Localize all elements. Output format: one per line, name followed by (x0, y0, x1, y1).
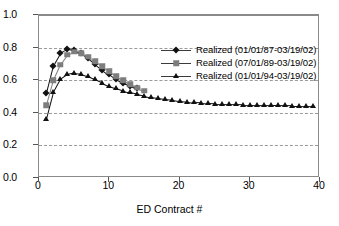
data-point-marker (303, 103, 309, 108)
y-axis-tick-label: 1.0 (0, 9, 17, 19)
data-point-marker (289, 103, 295, 108)
data-point-marker (113, 85, 119, 90)
y-axis-tick-label: 0.0 (0, 172, 17, 182)
data-point-marker (310, 103, 316, 108)
data-point-marker (261, 102, 267, 107)
data-point-marker (191, 99, 197, 104)
data-point-marker (50, 89, 56, 94)
data-point-marker (114, 73, 120, 79)
data-point-marker (92, 76, 98, 81)
data-point-marker (219, 101, 225, 106)
plot-area (38, 14, 319, 177)
data-point-marker (135, 85, 141, 91)
data-point-marker (169, 97, 175, 102)
data-point-marker (71, 49, 77, 55)
data-point-marker (78, 51, 84, 57)
y-axis-tick-label: 0.2 (0, 139, 17, 149)
x-axis-tick-mark (249, 177, 250, 182)
legend-label: Realized (01/01/87-03/19/02) (196, 44, 316, 56)
data-point-marker (148, 94, 154, 99)
y-axis-tick-label: 0.4 (0, 107, 17, 117)
data-point-marker (184, 99, 190, 104)
data-point-marker (99, 80, 105, 85)
data-point-marker (78, 71, 84, 76)
legend-marker-triangle (173, 73, 179, 78)
data-point-marker (240, 102, 246, 107)
data-point-marker (57, 76, 63, 81)
x-axis-tick-mark (108, 177, 109, 182)
data-point-marker (162, 96, 168, 101)
data-point-marker (85, 73, 91, 78)
data-point-marker (155, 95, 161, 100)
data-point-marker (212, 101, 218, 106)
data-point-marker (120, 88, 126, 93)
data-point-marker (128, 82, 134, 88)
y-axis-tick-label: 0.8 (0, 42, 17, 52)
data-point-marker (57, 62, 63, 68)
data-point-marker (64, 71, 70, 76)
data-point-marker (43, 116, 49, 121)
legend-label: Realized (07/01/89-03/19/02) (196, 57, 316, 69)
data-point-marker (205, 100, 211, 105)
data-point-marker (233, 101, 239, 106)
data-point-marker (254, 102, 260, 107)
x-axis-tick-mark (179, 177, 180, 182)
data-point-marker (106, 83, 112, 88)
data-point-marker (121, 77, 127, 83)
data-point-marker (107, 68, 113, 74)
data-point-marker (127, 89, 133, 94)
data-point-marker (247, 102, 253, 107)
x-axis-title: ED Contract # (0, 203, 339, 215)
data-point-marker (64, 52, 70, 58)
data-point-marker (71, 70, 77, 75)
data-series-layer (39, 15, 318, 176)
data-point-marker (296, 103, 302, 108)
legend-label: Realized (01/01/94-03/19/02) (196, 70, 316, 82)
data-point-marker (226, 101, 232, 106)
data-point-marker (177, 98, 183, 103)
data-point-marker (134, 91, 140, 96)
y-axis-tick-label: 0.6 (0, 74, 17, 84)
data-point-marker (198, 100, 204, 105)
data-point-marker (50, 77, 56, 83)
data-point-marker (268, 102, 274, 107)
data-point-marker (85, 54, 91, 60)
data-point-marker (99, 64, 105, 70)
x-axis-tick-mark (38, 177, 39, 182)
data-point-marker (141, 93, 147, 98)
data-point-marker (275, 102, 281, 107)
data-point-marker (92, 59, 98, 65)
chart-figure: 0.00.20.40.60.81.0 010203040 Realized (0… (0, 0, 339, 226)
legend-marker-square (173, 60, 179, 66)
data-point-marker (282, 102, 288, 107)
x-axis-tick-mark (319, 177, 320, 182)
